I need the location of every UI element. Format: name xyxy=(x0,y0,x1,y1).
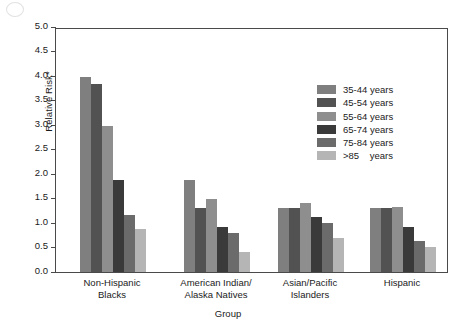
legend-item: 35-44 years xyxy=(317,83,393,96)
bar xyxy=(333,238,344,272)
bar xyxy=(228,233,239,272)
y-tick-label: 5.0 xyxy=(22,20,48,31)
bar xyxy=(184,180,195,272)
bar xyxy=(80,77,91,272)
y-tick-label: 0.5 xyxy=(22,240,48,251)
legend-swatch xyxy=(317,112,336,121)
legend-label: 65-74 years xyxy=(343,124,393,135)
bar xyxy=(300,203,311,272)
bar xyxy=(217,227,228,272)
bar xyxy=(206,199,217,273)
legend-item: 45-54 years xyxy=(317,96,393,109)
y-tick-label: 1.5 xyxy=(22,191,48,202)
bar xyxy=(102,126,113,272)
bar xyxy=(239,252,250,272)
legend-item: 75-84 years xyxy=(317,136,393,149)
legend-swatch xyxy=(317,138,336,147)
legend-item: >85 years xyxy=(317,149,393,162)
bar-set xyxy=(80,29,146,272)
y-tick-mark xyxy=(51,223,56,224)
legend-label: >85 years xyxy=(343,150,393,161)
bar xyxy=(289,208,300,272)
bar xyxy=(425,247,436,272)
group-label: Non-Hispanic Blacks xyxy=(52,277,172,300)
bar-set xyxy=(184,29,250,272)
y-tick-mark xyxy=(51,247,56,248)
y-axis-title: Relative Risk* xyxy=(43,32,54,172)
legend-label: 55-64 years xyxy=(343,111,393,122)
bar xyxy=(91,84,102,272)
group-label: Hispanic xyxy=(342,277,456,289)
y-tick-label: 0.0 xyxy=(22,265,48,276)
legend-item: 55-64 years xyxy=(317,110,393,123)
scan-artifact-icon xyxy=(6,2,24,17)
legend-item: 65-74 years xyxy=(317,123,393,136)
legend-label: 75-84 years xyxy=(343,137,393,148)
y-tick-mark xyxy=(51,174,56,175)
bar xyxy=(414,241,425,272)
y-tick-mark xyxy=(51,198,56,199)
legend-swatch xyxy=(317,85,336,94)
bar xyxy=(392,207,403,272)
legend-label: 35-44 years xyxy=(343,84,393,95)
bar xyxy=(124,215,135,272)
y-tick-mark xyxy=(51,272,56,273)
bar xyxy=(403,227,414,272)
bar xyxy=(278,208,289,272)
legend-swatch xyxy=(317,151,336,160)
bar xyxy=(311,217,322,272)
plot-area: 0.00.51.01.52.02.53.03.54.04.55.0 35-44 … xyxy=(55,28,448,273)
y-tick-label: 1.0 xyxy=(22,216,48,227)
legend-label: 45-54 years xyxy=(343,97,393,108)
bar xyxy=(135,229,146,272)
bar xyxy=(370,208,381,272)
legend-swatch xyxy=(317,125,336,134)
bar xyxy=(113,180,124,272)
bar xyxy=(322,223,333,272)
legend-swatch xyxy=(317,98,336,107)
bar xyxy=(195,208,206,272)
y-tick-mark xyxy=(51,27,56,28)
bar xyxy=(381,208,392,272)
x-axis-title: Group xyxy=(0,308,456,319)
chart-legend: 35-44 years45-54 years55-64 years65-74 y… xyxy=(317,83,393,163)
